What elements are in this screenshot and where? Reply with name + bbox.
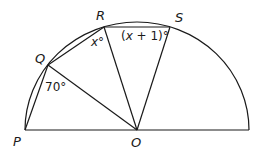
label-o: O [131, 135, 141, 150]
angle-x: x° [90, 35, 104, 49]
label-s: S [175, 10, 183, 25]
semicircle-diagram: P Q R S O 70° x° (x + 1)° [0, 0, 261, 152]
angle-70: 70° [45, 80, 66, 94]
angle-x-plus-1: (x + 1)° [121, 29, 169, 43]
label-p: P [13, 134, 21, 149]
label-q: Q [35, 51, 45, 66]
angle-plus-one: + 1)° [133, 29, 169, 43]
chord-pq [25, 65, 48, 130]
label-r: R [96, 8, 105, 23]
radius-oq [48, 65, 137, 130]
